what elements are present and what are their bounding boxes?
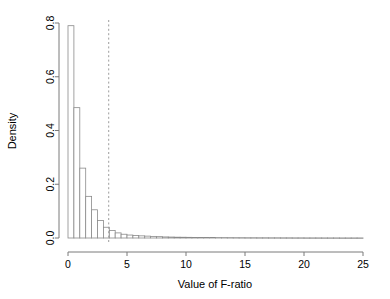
histogram-bar — [157, 237, 163, 238]
histogram-bar — [86, 196, 92, 238]
histogram-bar — [174, 237, 180, 238]
histogram-bar — [180, 237, 186, 238]
y-axis-tick-label: 0.2 — [44, 177, 56, 192]
chart-canvas: 0.00.20.40.60.8 0510152025 Value of F-ra… — [0, 0, 390, 299]
histogram-bar — [98, 221, 104, 238]
y-axis-title: Density — [6, 112, 18, 149]
x-axis-tick-label: 0 — [65, 258, 71, 270]
histogram-bar — [121, 234, 127, 238]
y-axis-tick-label: 0.8 — [44, 16, 56, 31]
histogram-bar — [133, 236, 139, 238]
histogram-bar — [151, 236, 157, 238]
histogram-bar — [92, 210, 98, 238]
y-axis-tick-label: 0.0 — [44, 231, 56, 246]
histogram-bar — [139, 236, 145, 238]
x-axis-tick-label: 5 — [124, 258, 130, 270]
histogram-bar — [162, 237, 168, 238]
histogram-chart: 0.00.20.40.60.8 0510152025 Value of F-ra… — [0, 0, 390, 299]
histogram-bar — [192, 237, 198, 238]
histogram-bar — [168, 237, 174, 238]
histogram-bar — [74, 108, 80, 238]
x-axis-tick-label: 25 — [357, 258, 369, 270]
histogram-bar — [186, 237, 192, 238]
histogram-bar — [80, 168, 86, 238]
histogram-bar — [145, 236, 151, 238]
histogram-bar — [198, 237, 204, 238]
histogram-bar — [68, 26, 74, 238]
x-axis-tick-label: 10 — [180, 258, 192, 270]
histogram-bar — [109, 230, 115, 238]
x-axis-title: Value of F-ratio — [178, 278, 252, 290]
histogram-bar — [115, 233, 121, 238]
x-axis-tick-label: 20 — [298, 258, 310, 270]
histogram-bar — [127, 235, 133, 238]
y-axis-tick-label: 0.6 — [44, 69, 56, 84]
x-axis-tick-label: 15 — [239, 258, 251, 270]
y-axis-tick-label: 0.4 — [44, 123, 56, 138]
